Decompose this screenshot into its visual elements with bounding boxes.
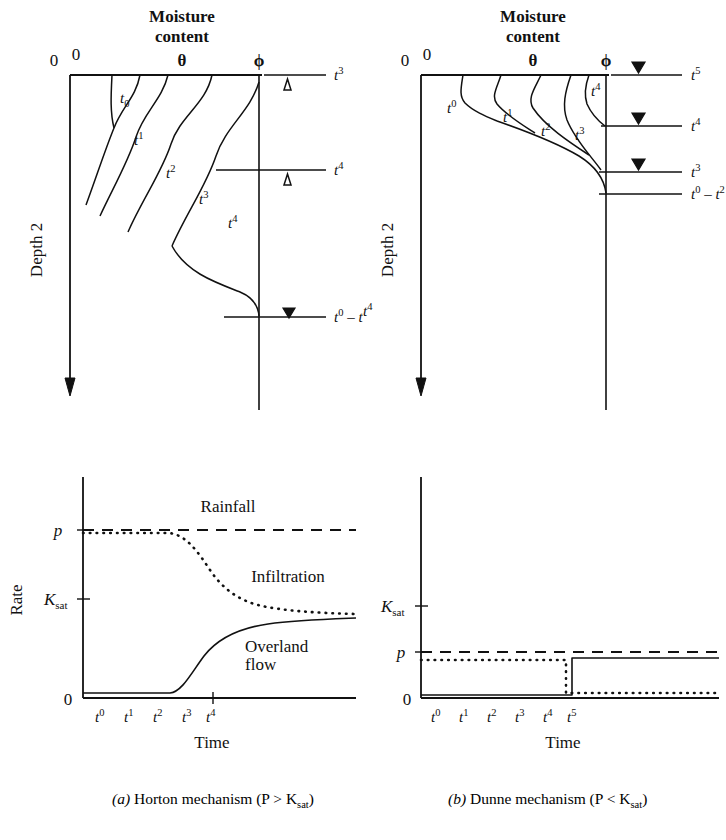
panel-b-triangle-down-solid-2 <box>632 113 645 124</box>
panel-b-depth-arrowhead <box>416 378 426 396</box>
chart-b-ytick-ksat: Ksat <box>380 597 405 618</box>
panel-a-curve-t0 <box>111 75 114 128</box>
panel-b-depth-axis-label: Depth 2 <box>378 223 397 277</box>
chart-horton-rate-time: Rate p Ksat 0 Rainfall Infiltration Over… <box>0 460 363 790</box>
panel-a-theta-symbol: θ <box>178 51 187 70</box>
chart-a-xtick-0: t0 <box>95 707 104 725</box>
chart-a-xtick-3: t3 <box>182 707 191 725</box>
panel-a-recession-curve <box>172 246 259 316</box>
panel-b-theta-symbol: θ <box>529 51 538 70</box>
chart-b-series-infiltration <box>421 660 719 693</box>
panel-a-curve-label-4: t4 <box>228 213 238 231</box>
panel-b-origin-inner-label: 0 <box>423 45 432 64</box>
panel-b-curve-t0 <box>461 75 497 121</box>
panel-a-triangle-up-open-2 <box>284 174 291 185</box>
chart-a-xtick-2: t2 <box>153 707 162 725</box>
panel-b-origin-outer-label: 0 <box>401 51 410 70</box>
panel-a-curve-t1 <box>86 75 140 205</box>
chart-a-series-overland-flow <box>83 618 356 693</box>
chart-dunne-rate-time: Ksat p 0 t0 t1 t2 t3 t4 t5 Time <box>363 460 726 790</box>
panel-a-curve-label-0: t0 <box>120 90 129 109</box>
chart-b-x-axis-label: Time <box>545 733 580 752</box>
panel-a-curve-t3 <box>128 75 212 232</box>
caption-a-index: (a) <box>112 790 130 807</box>
panel-b-curve-label-0: t0 <box>447 98 456 116</box>
panel-b-stray-label: t4 <box>363 301 373 319</box>
panel-a-header-line2: content <box>155 27 209 46</box>
panel-b-header-line2: content <box>506 27 560 46</box>
chart-a-ytick-ksat: Ksat <box>43 590 68 611</box>
panel-b-curve-label-4: t4 <box>591 81 601 99</box>
panel-a-moisture-profile: Moisture content θ ϕ 0 0 Depth 2 t3 <box>0 0 363 430</box>
panel-a-phi-symbol: ϕ <box>254 51 265 70</box>
panel-a-depth-arrowhead <box>65 378 75 396</box>
panel-b-header-line1: Moisture <box>500 7 566 26</box>
panel-b-curve-label-3: t3 <box>575 125 584 143</box>
panel-b-curve-t1 <box>494 75 535 133</box>
panel-a-header-line1: Moisture <box>149 7 215 26</box>
panel-a-curve-label-1: t1 <box>134 130 143 148</box>
chart-a-xtick-1: t1 <box>124 707 133 725</box>
caption-b-sub: sat <box>631 799 643 810</box>
chart-b-ytick-zero: 0 <box>403 690 412 709</box>
panel-b-moisture-profile: Moisture content θ ϕ 0 0 Depth 2 t4 t5 <box>363 0 726 430</box>
caption-row: (a) Horton mechanism (P > Ksat) (b) Dunn… <box>0 790 726 810</box>
panel-b-water-label-4: t0 – t2 <box>691 184 725 202</box>
panel-a-water-label-2: t4 <box>334 160 344 178</box>
caption-b: (b) Dunne mechanism (P < Ksat) <box>363 790 726 810</box>
caption-b-text: Dunne mechanism (P < K <box>470 790 631 807</box>
chart-a-label-overland-flow-2: flow <box>245 655 277 674</box>
panel-a-curve-label-3: t3 <box>199 189 208 207</box>
caption-a-sub: sat <box>297 799 309 810</box>
chart-b-xtick-1: t1 <box>459 707 468 725</box>
panel-a-triangle-up-open-1 <box>284 79 291 90</box>
panel-b-water-label-2: t4 <box>691 116 701 134</box>
panel-a-origin-inner-label: 0 <box>72 45 81 64</box>
caption-a: (a) Horton mechanism (P > Ksat) <box>0 790 363 810</box>
chart-a-y-axis-label: Rate <box>7 584 26 615</box>
panel-b-triangle-down-solid-1 <box>632 62 645 73</box>
chart-a-ytick-zero: 0 <box>64 690 73 709</box>
chart-a-ytick-p: p <box>53 521 63 540</box>
chart-b-xtick-0: t0 <box>431 707 440 725</box>
chart-a-label-infiltration: Infiltration <box>251 567 325 586</box>
chart-b-xtick-2: t2 <box>487 707 496 725</box>
panel-b-water-label-3: t3 <box>691 162 700 180</box>
panel-a-water-label-1: t3 <box>334 65 343 83</box>
chart-a-label-overland-flow: Overland <box>245 637 309 656</box>
chart-a-xtick-4: t4 <box>206 707 216 725</box>
panel-a-curve-t4 <box>172 82 259 246</box>
panel-b-curve-label-1: t1 <box>503 107 512 125</box>
panel-a-curve-label-2: t2 <box>166 163 175 181</box>
panel-b-phi-symbol: ϕ <box>601 51 612 70</box>
chart-b-xtick-4: t4 <box>543 707 553 725</box>
panel-a-origin-outer-label: 0 <box>50 51 59 70</box>
chart-a-x-axis-label: Time <box>194 733 229 752</box>
panel-b-curve-label-2: t2 <box>541 121 550 139</box>
chart-b-xtick-5: t5 <box>567 707 576 725</box>
panel-a-depth-axis-label: Depth 2 <box>27 223 46 277</box>
panel-b-water-label-1: t5 <box>691 65 700 83</box>
chart-b-ytick-p: p <box>396 643 406 662</box>
figure-root: Moisture content θ ϕ 0 0 Depth 2 t3 <box>0 0 726 840</box>
panel-b-triangle-down-solid-3 <box>632 159 645 170</box>
chart-a-label-rainfall: Rainfall <box>201 497 256 516</box>
chart-b-xtick-3: t3 <box>515 707 524 725</box>
panel-b-envelope-curve <box>497 121 606 193</box>
caption-a-text: Horton mechanism (P > K <box>134 790 297 807</box>
caption-b-tail: ) <box>642 790 647 807</box>
caption-b-index: (b) <box>448 790 466 807</box>
panel-a-water-label-3: t0 – t4 <box>334 307 363 325</box>
caption-a-tail: ) <box>309 790 314 807</box>
chart-b-series-overland-flow <box>421 658 719 695</box>
